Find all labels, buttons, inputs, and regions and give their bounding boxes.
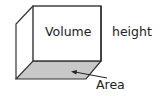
height-label: height <box>112 26 152 39</box>
volume-label: Volume <box>45 26 92 39</box>
box-drawing <box>0 0 164 96</box>
base-area-shape <box>16 61 101 79</box>
volume-diagram: Volume height Area <box>0 0 164 96</box>
area-label: Area <box>96 79 125 92</box>
